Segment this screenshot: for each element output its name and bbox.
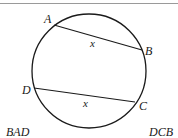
chord-ab (54, 25, 142, 50)
circle (32, 14, 146, 128)
diagram-canvas: A B C D x x BAD DCB (0, 0, 178, 138)
arc-label-bad: BAD (6, 125, 30, 138)
point-label-b: B (145, 44, 153, 58)
chord-ab-length-label: x (89, 37, 95, 49)
point-label-c: C (139, 99, 148, 113)
circle-chords-figure: A B C D x x BAD DCB (0, 0, 178, 138)
point-label-d: D (21, 83, 31, 97)
chord-dc-length-label: x (82, 97, 88, 109)
point-label-a: A (43, 12, 52, 26)
arc-label-dcb: DCB (148, 125, 174, 138)
